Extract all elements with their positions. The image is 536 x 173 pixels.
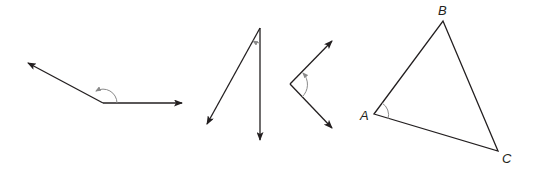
vertex-label-c: C <box>502 151 512 166</box>
ray-lower-left <box>207 28 260 124</box>
triangle-outline <box>374 21 498 151</box>
ray-upper-left <box>28 63 103 103</box>
ray-lower-right <box>290 84 332 128</box>
obtuse-angle-figure <box>28 63 182 103</box>
right-opening-angle-figure <box>290 41 332 128</box>
angle-arc-arrow-icon <box>253 41 260 43</box>
angle-diagram-canvas: A B C <box>0 0 536 173</box>
ray-upper-right <box>290 41 332 84</box>
vertex-label-a: A <box>359 108 369 123</box>
narrow-acute-angle-figure <box>207 28 260 140</box>
vertex-label-b: B <box>438 3 447 18</box>
triangle-abc: A B C <box>359 3 512 166</box>
angle-arc-arrow-icon <box>302 73 307 97</box>
